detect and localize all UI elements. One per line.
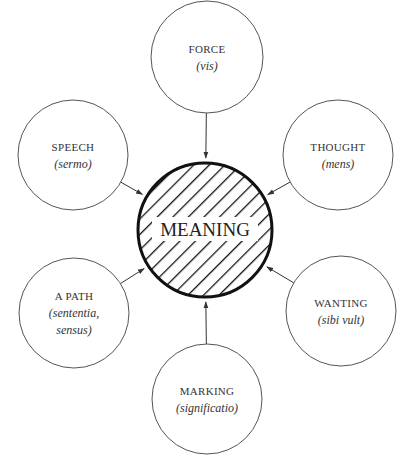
node-force: FORCE(vis) — [151, 1, 263, 113]
arrow-path — [120, 269, 144, 284]
node-label: FORCE — [189, 43, 226, 55]
node-label: WANTING — [314, 297, 367, 309]
node-label: A PATH — [55, 290, 93, 302]
node-latin-term: sensus) — [56, 323, 91, 337]
node-circle — [151, 1, 263, 113]
arrow-force — [206, 113, 207, 158]
center-node-meaning: MEANING — [138, 163, 272, 297]
node-label: MARKING — [180, 385, 235, 397]
node-latin-term: (significatio) — [176, 401, 238, 415]
node-latin-term: (sententia, — [49, 306, 99, 320]
node-latin-term: (sermo) — [54, 157, 91, 171]
node-circle — [283, 100, 393, 210]
center-label: MEANING — [160, 219, 250, 240]
node-circle — [286, 256, 396, 366]
node-wanting: WANTING(sibi vult) — [286, 256, 396, 366]
node-circle — [18, 100, 128, 210]
node-marking: MARKING(significatio) — [152, 344, 262, 454]
node-latin-term: (sibi vult) — [318, 313, 364, 327]
node-latin-term: (vis) — [196, 59, 217, 73]
node-latin-term: (mens) — [322, 157, 355, 171]
arrow-wanting — [267, 267, 294, 283]
arrow-speech — [121, 182, 143, 194]
meaning-diagram: FORCE(vis)SPEECH(sermo)THOUGHT(mens)A PA… — [0, 0, 414, 462]
node-label: SPEECH — [52, 141, 95, 153]
node-circle — [152, 344, 262, 454]
arrow-thought — [268, 182, 290, 195]
node-label: THOUGHT — [310, 141, 365, 153]
node-speech: SPEECH(sermo) — [18, 100, 128, 210]
node-thought: THOUGHT(mens) — [283, 100, 393, 210]
node-path: A PATH(sententia,sensus) — [19, 258, 129, 368]
